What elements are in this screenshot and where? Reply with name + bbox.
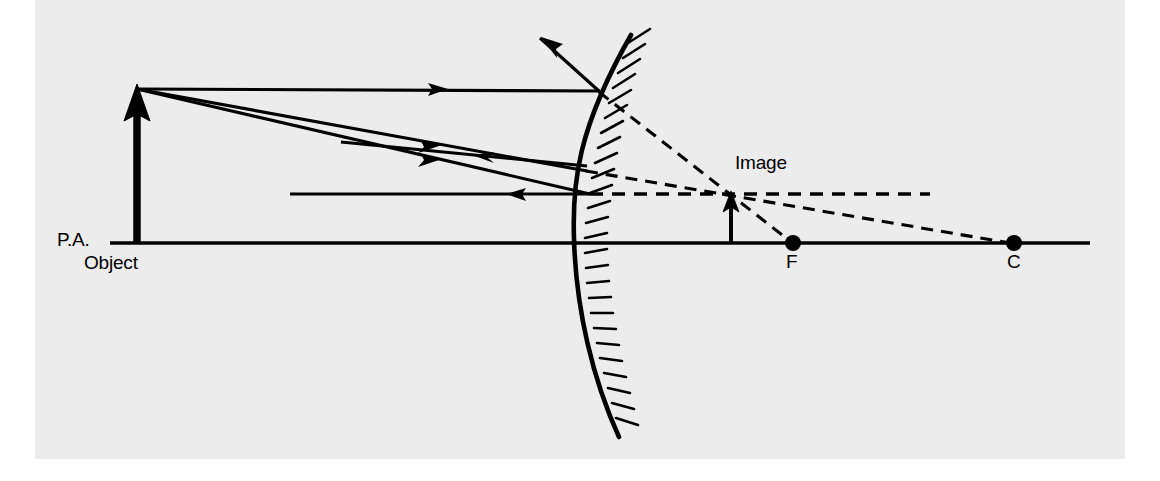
focal-point-label: F [786,251,797,273]
figure-canvas: P.A. Object Image F C [0,0,1160,481]
incident-ray-toward-f [137,89,590,194]
reflected-parallel-ray [290,188,590,201]
object-label: Object [84,252,138,274]
principal-axis-label: P.A. [57,229,90,251]
image-arrow [723,191,739,243]
ray-diagram [0,0,1160,481]
center-of-curvature-label: C [1007,251,1021,273]
virtual-extension-to-c [586,171,1016,244]
focal-point-dot [785,235,801,251]
image-label: Image [735,152,787,174]
center-of-curvature-dot [1006,235,1022,251]
object-arrow [124,84,150,243]
reflected-ray-from-parallel [540,37,600,92]
incident-parallel-ray [137,83,600,96]
